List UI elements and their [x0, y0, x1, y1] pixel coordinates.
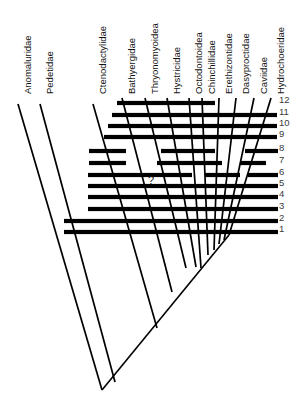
character-bar-3 — [88, 207, 278, 211]
branch-line-pedetidae — [40, 104, 115, 382]
taxon-label-hydrochoeridae: Hydrochoeridae — [275, 27, 286, 94]
character-bar-2 — [64, 219, 278, 223]
node-number-2: 2 — [279, 212, 284, 223]
character-bar-10 — [108, 124, 277, 128]
node-number-9: 9 — [279, 128, 284, 139]
character-bar-8-seg2 — [161, 149, 215, 153]
taxon-label-erethizontidae: Erethizontidae — [223, 33, 234, 94]
taxon-label-ctenodactylidae: Ctenodactylidae — [97, 26, 108, 94]
taxon-label-thryonomyoidea: Thryonomyoidea — [149, 23, 160, 94]
character-bar-5 — [88, 184, 278, 188]
node-number-11: 11 — [279, 106, 289, 117]
character-bar-6-seg2 — [205, 173, 240, 177]
character-bar-6-seg1 — [88, 173, 192, 177]
node-number-4: 4 — [279, 188, 284, 199]
taxon-label-caviidae: Caviidae — [258, 57, 269, 94]
taxon-label-pedetidae: Pedetidae — [44, 51, 55, 94]
character-bar-7-seg2 — [157, 161, 222, 165]
node-number-1: 1 — [279, 223, 284, 234]
node-number-6: 6 — [279, 166, 284, 177]
node-number-12: 12 — [279, 94, 290, 105]
taxon-label-bathyergidae: Bathyergidae — [126, 38, 137, 94]
branch-line-anomaluridae — [18, 104, 102, 390]
character-bar-11 — [112, 113, 277, 117]
character-bar-7-seg1 — [89, 161, 126, 165]
character-bar-6-seg3 — [248, 173, 278, 177]
cladogram-figure: AnomaluridaePedetidaeCtenodactylidaeBath… — [0, 0, 298, 413]
node-number-7: 7 — [279, 154, 284, 165]
taxon-label-octodontoidea: Octodontoidea — [193, 32, 204, 94]
character-bar-9 — [104, 135, 277, 139]
taxon-label-chinchillidae: Chinchillidae — [206, 40, 217, 94]
character-bar-7-seg3 — [240, 161, 266, 165]
character-bar-4 — [88, 195, 278, 199]
taxon-label-dasyproctidae: Dasyproctidae — [240, 33, 251, 94]
taxon-label-hystricidae: Hystricidae — [171, 47, 182, 94]
character-bar-8-seg3 — [245, 149, 278, 153]
character-bar-8-seg1 — [89, 149, 126, 153]
node-number-8: 8 — [279, 142, 284, 153]
character-bar-1 — [64, 230, 278, 234]
branch-line-octodontoidea — [189, 98, 201, 268]
taxon-label-anomaluridae: Anomaluridae — [22, 35, 33, 94]
root-stem-line — [102, 235, 229, 390]
branch-line-hystricidae — [167, 98, 196, 267]
character-bar-12 — [117, 101, 215, 105]
node-number-10: 10 — [279, 117, 290, 128]
branch-lines-group — [18, 98, 271, 390]
node-number-3: 3 — [279, 200, 284, 211]
uncertainty-question-mark: ? — [148, 174, 154, 186]
node-number-5: 5 — [279, 177, 284, 188]
